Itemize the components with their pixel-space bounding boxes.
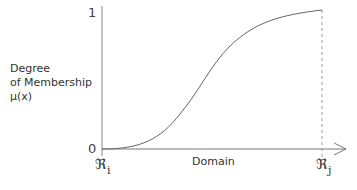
y-tick-1: 1 (88, 5, 96, 20)
y-axis-label: Degree of Membership μ(x) (10, 62, 92, 104)
y-tick-0: 0 (88, 141, 96, 156)
y-label-line-3: μ(x) (10, 90, 92, 104)
membership-curve (102, 10, 322, 149)
x-tick-ri: ℜi (95, 156, 111, 172)
y-label-line-1: Degree (10, 62, 92, 76)
x-tick-rj-main: ℜ (316, 156, 327, 172)
x-tick-ri-sub: i (107, 164, 111, 177)
y-label-line-2: of Membership (10, 76, 92, 90)
x-tick-ri-main: ℜ (95, 156, 106, 172)
x-axis-label: Domain (192, 155, 235, 169)
x-tick-rj-sub: j (328, 164, 331, 177)
x-tick-rj: ℜj (316, 156, 331, 172)
